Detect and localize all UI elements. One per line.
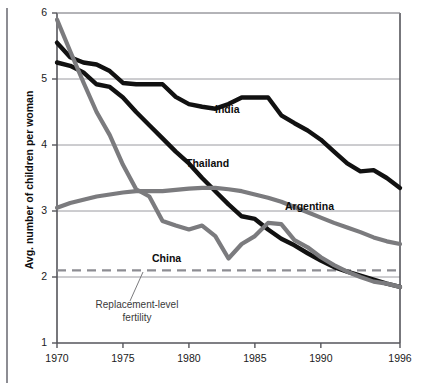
x-tick-label-1980: 1980 [169, 352, 209, 364]
plot-canvas [0, 0, 428, 391]
y-tick-label-4: 4 [31, 138, 47, 150]
series-label-india: India [215, 103, 240, 115]
x-tick-label-1970: 1970 [37, 352, 77, 364]
data-series-group [57, 20, 400, 287]
replacement-level-annotation-line2: fertility [123, 312, 152, 323]
annotation-leader-line [130, 272, 143, 301]
x-tick-label-1985: 1985 [235, 352, 275, 364]
x-tick-label-1975: 1975 [103, 352, 143, 364]
replacement-level-annotation-line1: Replacement-level [96, 299, 179, 310]
fertility-line-chart: Avg. number of children per woman 123456… [0, 0, 428, 391]
y-tick-label-3: 3 [31, 204, 47, 216]
tick-marks [52, 13, 400, 348]
replacement-level-annotation: Replacement-level fertility [72, 299, 202, 324]
axis-lines [57, 13, 400, 343]
y-tick-label-1: 1 [31, 336, 47, 348]
series-line-thailand [57, 63, 400, 287]
x-tick-label-1996: 1996 [380, 352, 420, 364]
gridlines [57, 13, 400, 277]
y-tick-label-6: 6 [31, 6, 47, 18]
x-tick-label-1990: 1990 [301, 352, 341, 364]
series-line-china [57, 20, 400, 287]
series-line-argentina [57, 188, 400, 244]
y-tick-label-2: 2 [31, 270, 47, 282]
y-tick-label-5: 5 [31, 72, 47, 84]
series-label-china: China [152, 252, 181, 264]
series-label-thailand: Thailand [186, 157, 229, 169]
series-label-argentina: Argentina [285, 200, 334, 212]
